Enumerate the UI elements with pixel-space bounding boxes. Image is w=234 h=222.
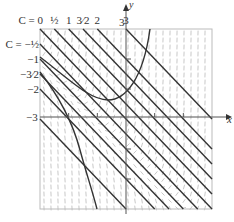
slope-mark [72,38,73,43]
slope-mark [148,150,149,155]
slope-mark [107,94,108,99]
slope-mark [71,66,72,71]
slope-mark [51,122,52,127]
slope-mark [64,59,65,64]
slope-mark [120,122,121,126]
slope-mark [156,122,157,127]
slope-mark [121,108,122,113]
slope-mark [65,129,66,134]
slope-mark [65,122,66,127]
slope-mark [99,94,100,99]
solution-line [40,74,169,209]
slope-mark [72,143,73,148]
slope-mark [177,164,178,169]
slope-mark [121,87,122,92]
slope-mark [44,101,45,106]
slope-mark [50,45,51,50]
slope-mark [92,101,94,105]
slope-mark [64,94,66,98]
slope-mark [112,130,115,133]
slope-mark [84,102,88,104]
slope-mark [156,143,157,148]
slope-mark [190,192,191,197]
slope-mark [92,122,94,126]
c-label: 1 [66,14,72,26]
slope-mark [142,129,143,134]
slope-mark [86,52,87,57]
c-label: −2 [27,83,39,95]
slope-mark [93,164,94,169]
solution-line [69,29,212,179]
slope-mark [99,101,100,105]
slope-mark [113,157,114,162]
slope-mark [85,87,87,91]
slope-mark [100,157,101,162]
slope-mark [100,80,101,85]
slope-mark [50,59,52,63]
slope-mark [79,136,80,141]
slope-mark [51,108,52,113]
slope-mark [197,199,198,204]
slope-mark [191,164,192,169]
c-label: C = 0 [18,14,43,26]
slope-mark [85,94,87,98]
slope-mark [135,108,136,113]
slope-mark [63,81,67,83]
slope-mark [78,73,79,78]
slope-mark [77,95,81,97]
slope-mark [148,192,149,197]
slope-mark [120,164,121,169]
slope-mark [79,150,80,155]
slope-mark [128,108,129,113]
slope-mark [170,143,171,148]
c-label: C = −½ [6,38,40,50]
slope-mark [128,94,129,99]
slope-mark [72,129,73,134]
slope-mark [70,95,74,97]
slope-mark [121,101,122,106]
solution-line [40,44,198,209]
slope-mark [142,122,143,127]
slope-mark [99,143,100,148]
slope-mark [127,171,128,176]
slope-mark [135,199,136,204]
slope-mark [100,164,101,169]
slope-mark [149,129,150,134]
slope-mark [148,178,151,181]
slope-mark [170,157,171,162]
slope-mark [142,206,143,211]
slope-mark [135,192,136,197]
slope-mark [156,129,157,134]
slope-mark [163,136,164,141]
slope-mark [105,123,108,126]
slope-mark [198,185,199,190]
slope-mark [169,171,170,176]
slope-mark [141,143,142,148]
slope-mark [141,157,144,160]
slope-mark [44,108,45,113]
slope-mark [149,136,150,141]
slope-mark [161,192,164,195]
slope-mark [191,178,192,183]
slope-mark [85,80,86,85]
slope-mark [100,171,101,176]
slope-mark [57,66,59,70]
slope-mark [128,206,129,211]
slope-mark [128,192,129,197]
slope-mark [57,101,58,106]
slope-mark [183,199,186,203]
slope-mark [114,171,115,176]
slope-mark [72,52,73,57]
slope-mark [65,136,66,141]
solution-line [83,29,212,164]
slope-mark [149,122,150,127]
slope-mark [169,185,172,189]
slope-mark [119,137,122,140]
slope-mark [91,109,94,111]
slope-mark [205,178,206,183]
slope-mark [79,59,80,64]
slope-mark [65,31,66,36]
slope-mark [99,129,102,133]
solution-line [40,59,183,209]
slope-mark [49,74,52,76]
